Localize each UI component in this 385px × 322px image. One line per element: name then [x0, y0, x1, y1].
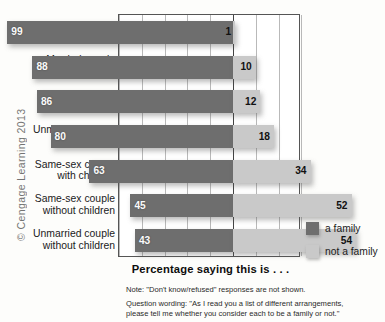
- bar-value-label: 43: [139, 236, 150, 246]
- bar-a-family: 88: [32, 56, 233, 79]
- bar-a-family: 45: [130, 194, 233, 217]
- bar-value-label: 63: [93, 166, 104, 176]
- bar-row: 8810: [119, 56, 299, 79]
- category-label: Same-sex couplewithout children: [14, 193, 115, 216]
- bar-not-a-family: 1: [233, 21, 235, 44]
- bar-a-family: 86: [37, 90, 233, 113]
- chart-plot-area: 991881086128018633445524354: [118, 14, 300, 257]
- bar-a-family: 80: [51, 125, 233, 148]
- bar-value-label: 86: [41, 97, 52, 107]
- dark-swatch: [306, 222, 319, 235]
- bar-row: 4354: [119, 229, 299, 252]
- bar-value-label: 18: [259, 131, 270, 141]
- bar-not-a-family: 10: [233, 56, 256, 79]
- bar-a-family: 63: [89, 160, 233, 183]
- bar-a-family: 43: [135, 229, 233, 252]
- bar-not-a-family: 34: [233, 160, 311, 183]
- legend-label: not a family: [325, 246, 378, 257]
- bar-not-a-family: 12: [233, 90, 260, 113]
- figure-note-line: Note: "Don't know/refused" responses are…: [126, 285, 382, 294]
- category-label-line: Unmarried couple: [14, 228, 115, 240]
- bar-row: 8612: [119, 90, 299, 113]
- legend-item[interactable]: a family: [306, 220, 384, 237]
- category-label-line: Same-sex couple: [14, 193, 115, 205]
- bar-value-label: 12: [245, 97, 256, 107]
- gridline: [301, 15, 302, 256]
- bar-row: 8018: [119, 125, 299, 148]
- axis-caption: Percentage saying this is . . .: [118, 263, 303, 275]
- bar-value-label: 45: [134, 201, 145, 211]
- bar-value-label: 80: [55, 131, 66, 141]
- category-label-line: without children: [14, 205, 115, 217]
- category-label: Unmarried couplewithout children: [14, 228, 115, 251]
- figure-note-line: please tell me whether you consider each…: [126, 309, 382, 318]
- bar-value-label: 52: [336, 201, 347, 211]
- bar-value-label: 99: [11, 27, 22, 37]
- bar-a-family: 99: [7, 21, 233, 44]
- bar-row: 4552: [119, 194, 299, 217]
- figure-note: Question wording: "As I read you a list …: [126, 299, 382, 318]
- category-label-line: without children: [14, 240, 115, 252]
- figure-note-line: Question wording: "As I read you a list …: [126, 299, 382, 308]
- bar-row: 6334: [119, 160, 299, 183]
- light-swatch: [306, 245, 319, 258]
- chart-legend: a familynot a family: [306, 220, 384, 266]
- bar-value-label: 34: [295, 166, 306, 176]
- bar-row: 991: [119, 21, 299, 44]
- bar-not-a-family: 52: [233, 194, 352, 217]
- bar-value-label: 88: [36, 62, 47, 72]
- figure-notes: Note: "Don't know/refused" responses are…: [126, 285, 382, 322]
- bar-not-a-family: 18: [233, 125, 274, 148]
- legend-label: a family: [325, 223, 360, 234]
- figure-note: Note: "Don't know/refused" responses are…: [126, 285, 382, 294]
- bar-rows: 991881086128018633445524354: [119, 15, 299, 256]
- bar-value-label: 1: [226, 27, 232, 37]
- bar-value-label: 10: [240, 62, 251, 72]
- legend-item[interactable]: not a family: [306, 243, 384, 260]
